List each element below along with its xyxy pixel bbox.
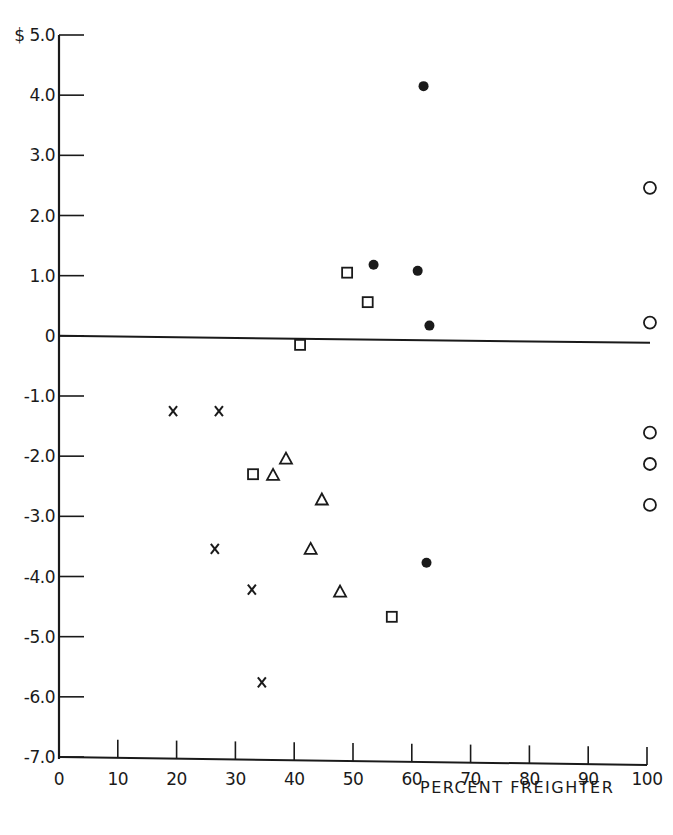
x-tick-label: 30 <box>225 769 246 789</box>
y-tick-label: 1.0 <box>29 266 55 286</box>
triangle-marker <box>280 453 292 464</box>
filled-circle-marker <box>424 321 434 331</box>
zero-reference-line <box>59 336 650 343</box>
square-marker <box>342 268 352 278</box>
filled-circle-marker <box>369 260 379 270</box>
scatter-chart: $ 5.04.03.02.01.00-1.0-2.0-3.0-4.0-5.0-6… <box>0 0 673 835</box>
x-tick-label: 0 <box>54 769 64 789</box>
y-tick-label: 2.0 <box>29 206 55 226</box>
triangle-marker <box>334 586 346 597</box>
open-circle-marker <box>644 182 656 194</box>
triangle-marker <box>267 469 279 480</box>
x-tick-label: 50 <box>343 769 364 789</box>
y-tick-label: -3.0 <box>24 506 55 526</box>
x-tick-label: 20 <box>166 769 187 789</box>
y-tick-label: -7.0 <box>24 747 55 767</box>
y-tick-label: -2.0 <box>24 446 55 466</box>
square-marker <box>248 469 258 479</box>
cross-marker <box>258 677 266 687</box>
cross-marker <box>211 544 219 554</box>
x-tick-label: 40 <box>284 769 305 789</box>
chart-canvas: $ 5.04.03.02.01.00-1.0-2.0-3.0-4.0-5.0-6… <box>0 0 673 835</box>
y-tick-label: -4.0 <box>24 567 55 587</box>
y-tick-label: -6.0 <box>24 687 55 707</box>
zero-line <box>59 336 650 343</box>
open-circle-marker <box>644 499 656 511</box>
x-axis-title: PERCENT FREIGHTER <box>420 778 614 797</box>
square-marker <box>295 340 305 350</box>
x-tick-label: 100 <box>632 769 663 789</box>
filled-circle-marker <box>419 81 429 91</box>
y-tick-label: -1.0 <box>24 386 55 406</box>
data-points <box>169 81 656 687</box>
triangle-marker <box>305 543 317 554</box>
y-tick-label: 4.0 <box>29 85 55 105</box>
y-tick-label: -5.0 <box>24 627 55 647</box>
x-tick-label: 10 <box>107 769 128 789</box>
filled-circle-marker <box>413 266 423 276</box>
y-tick-label: 3.0 <box>29 145 55 165</box>
open-circle-marker <box>644 317 656 329</box>
y-tick-label: 0 <box>45 326 55 346</box>
y-axis: $ 5.04.03.02.01.00-1.0-2.0-3.0-4.0-5.0-6… <box>14 25 84 767</box>
square-marker <box>387 612 397 622</box>
y-tick-label: $ 5.0 <box>14 25 55 45</box>
open-circle-marker <box>644 427 656 439</box>
square-marker <box>363 297 373 307</box>
cross-marker <box>248 585 256 595</box>
triangle-marker <box>316 493 328 504</box>
cross-marker <box>169 406 177 416</box>
cross-marker <box>215 406 223 416</box>
filled-circle-marker <box>422 558 432 568</box>
open-circle-marker <box>644 458 656 470</box>
